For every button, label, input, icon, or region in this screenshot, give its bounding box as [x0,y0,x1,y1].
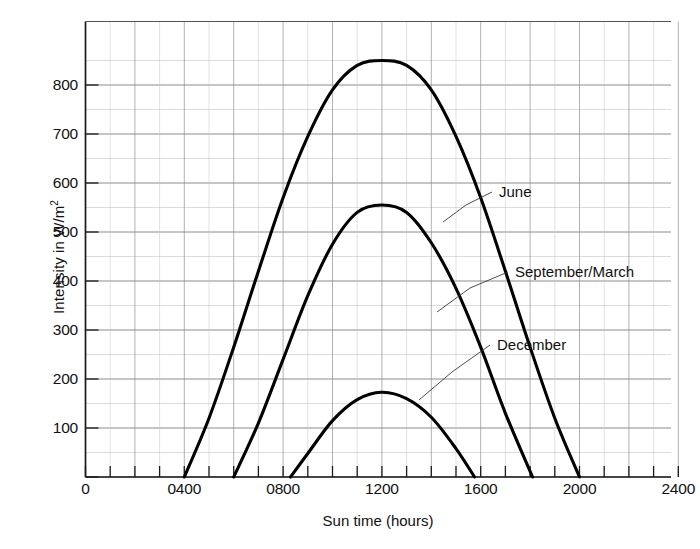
y-tick-label-group: 100200300400500600700800 [0,0,78,549]
y-tick-label: 100 [14,420,78,436]
gridlines [86,22,679,478]
curve-label-december: December [497,337,566,352]
curve-september-march [234,205,533,477]
x-tick-label: 0800 [243,481,323,497]
axis-frame [86,22,672,478]
y-tick-label: 400 [14,273,78,289]
curve-label-june: June [499,184,532,199]
annotation-leader-lines [419,192,508,400]
x-tick-label: 0 [46,481,126,497]
x-tick-label: 2400 [638,481,700,497]
x-tick-label: 2000 [540,481,620,497]
y-tick-label: 300 [14,322,78,338]
leader-line-december [419,345,490,400]
curve-label-september-march: September/March [515,264,634,279]
y-tick-label: 200 [14,371,78,387]
leader-line-september-march [437,272,508,312]
x-tick-label: 0400 [144,481,224,497]
y-tick-label: 800 [14,77,78,93]
y-tick-label: 700 [14,126,78,142]
x-tick-label: 1600 [441,481,521,497]
x-axis-title: Sun time (hours) [85,512,671,529]
y-tick-label: 600 [14,175,78,191]
curve-december [291,392,475,477]
x-tick-label: 1200 [342,481,422,497]
y-tick-label: 500 [14,224,78,240]
